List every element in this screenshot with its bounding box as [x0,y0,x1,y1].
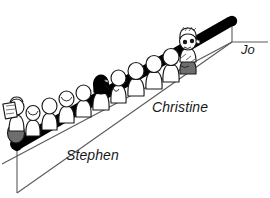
label-christine: Christine [152,100,208,114]
queue-diagram-canvas: Stephen Christine Jo [0,0,270,198]
label-stephen: Stephen [66,148,119,162]
person-figure-stephen [3,97,25,143]
queue-illustration [0,0,270,198]
person-figure [163,49,179,83]
person-figure [42,98,57,130]
label-jo: Jo [241,43,255,56]
person-figure [26,106,40,137]
person-figure-christine [93,75,109,110]
